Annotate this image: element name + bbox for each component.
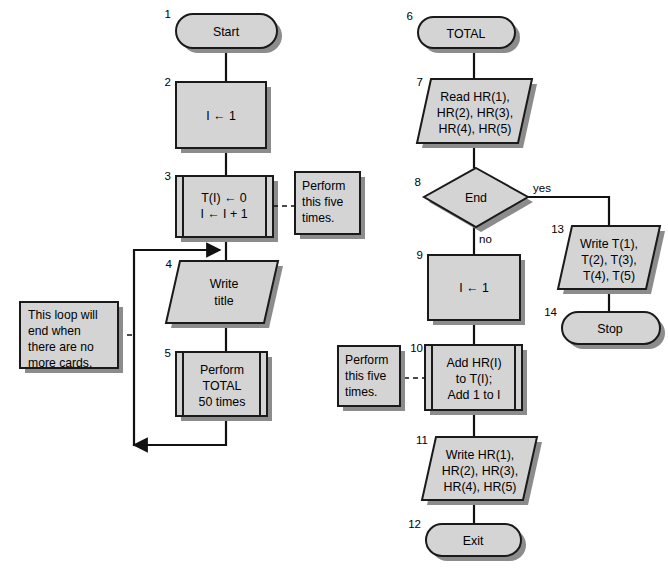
node-total-entry[interactable]: 6 TOTAL bbox=[407, 10, 520, 53]
node-write-totals-label-1: Write T(1), bbox=[580, 237, 638, 251]
node-write-totals-label-2: T(2), T(3), bbox=[581, 253, 637, 267]
node-init-i[interactable]: 2 I ← 1 bbox=[165, 76, 271, 153]
node-start-number: 1 bbox=[165, 8, 171, 20]
node-exit-number: 12 bbox=[408, 518, 421, 530]
node-write-hr-label-2: HR(2), HR(3), bbox=[442, 464, 518, 478]
node-read-hr-label-2: HR(2), HR(3), bbox=[437, 106, 513, 120]
annotation-loop-line-4: more cards. bbox=[28, 356, 92, 370]
annotation-perform-five-times-top: Perform this five times. bbox=[273, 172, 365, 239]
node-decision-end-label-1: End bbox=[465, 191, 487, 205]
node-accumulate-label-3: Add 1 to I bbox=[447, 388, 500, 402]
node-stop-label-1: Stop bbox=[597, 322, 623, 336]
annotation-loop-note: This loop will end when there are no mor… bbox=[20, 302, 134, 373]
node-read-hr-number: 7 bbox=[417, 76, 423, 88]
node-clear-totals-number: 3 bbox=[165, 170, 171, 182]
node-decision-end-number: 8 bbox=[415, 176, 421, 188]
annotation-loop-line-3: there are no bbox=[28, 340, 94, 354]
annotation-bottom-line-3: times. bbox=[345, 385, 378, 399]
node-write-hr-label-3: HR(4), HR(5) bbox=[444, 480, 517, 494]
node-clear-totals-label-1: T(I) ← 0 bbox=[201, 191, 247, 205]
node-reset-i-number: 9 bbox=[417, 249, 423, 261]
node-decision-end[interactable]: 8 End yes no bbox=[415, 168, 552, 245]
conn-8-yes-to-13 bbox=[528, 197, 609, 226]
annotation-loop-line-2: end when bbox=[28, 324, 81, 338]
node-stop[interactable]: 14 Stop bbox=[544, 306, 665, 349]
node-write-totals-label-3: T(4), T(5) bbox=[583, 269, 635, 283]
node-accumulate-label-1: Add HR(I) bbox=[446, 356, 501, 370]
node-perform-total-label-3: 50 times bbox=[199, 395, 246, 409]
annotation-bottom-line-1: Perform bbox=[345, 353, 388, 367]
flowchart-svg: 1 Start 2 I ← 1 3 T(I) ← 0 I ← I + 1 4 W… bbox=[0, 0, 668, 569]
node-perform-total[interactable]: 5 Perform TOTAL 50 times bbox=[165, 347, 272, 421]
node-accumulate[interactable]: 10 Add HR(I) to T(I); Add 1 to I bbox=[410, 342, 527, 415]
annotation-perform-five-times-bottom: Perform this five times. bbox=[338, 346, 425, 411]
flowchart-canvas: 1 Start 2 I ← 1 3 T(I) ← 0 I ← I + 1 4 W… bbox=[0, 0, 668, 569]
node-write-title-label-1: Write bbox=[210, 277, 239, 291]
node-start-label-1: Start bbox=[213, 25, 240, 39]
branch-label-no: no bbox=[479, 233, 492, 245]
node-total-entry-number: 6 bbox=[407, 10, 413, 22]
node-perform-total-number: 5 bbox=[165, 347, 171, 359]
node-init-i-number: 2 bbox=[165, 76, 171, 88]
node-perform-total-label-1: Perform bbox=[200, 363, 244, 377]
node-start[interactable]: 1 Start bbox=[165, 8, 282, 53]
node-write-totals-number: 13 bbox=[551, 223, 564, 235]
node-write-totals[interactable]: 13 Write T(1), T(2), T(3), T(4), T(5) bbox=[551, 223, 665, 294]
node-write-title-number: 4 bbox=[166, 258, 173, 270]
branch-label-yes: yes bbox=[533, 182, 551, 194]
node-clear-totals-label-2: I ← I + 1 bbox=[200, 207, 247, 221]
node-exit-label-1: Exit bbox=[463, 534, 484, 548]
annotation-bottom-line-2: this five bbox=[345, 369, 387, 383]
node-init-i-label-1: I ← 1 bbox=[206, 109, 236, 123]
node-reset-i[interactable]: 9 I ← 1 bbox=[417, 249, 525, 325]
node-write-hr-number: 11 bbox=[416, 434, 428, 446]
node-write-hr-label-1: Write HR(1), bbox=[446, 448, 515, 462]
node-accumulate-number: 10 bbox=[410, 342, 423, 354]
node-read-hr[interactable]: 7 Read HR(1), HR(2), HR(3), HR(4), HR(5) bbox=[417, 76, 537, 148]
node-read-hr-label-1: Read HR(1), bbox=[440, 90, 510, 104]
node-exit[interactable]: 12 Exit bbox=[408, 518, 526, 561]
node-clear-totals[interactable]: 3 T(I) ← 0 I ← I + 1 bbox=[165, 170, 278, 242]
node-write-title-shape bbox=[166, 261, 278, 323]
node-accumulate-label-2: to T(I); bbox=[456, 372, 492, 386]
annotation-top-line-2: this five bbox=[302, 195, 344, 209]
node-write-title-label-2: title bbox=[214, 294, 233, 308]
annotation-loop-line-1: This loop will bbox=[28, 308, 98, 322]
node-reset-i-label-1: I ← 1 bbox=[459, 281, 489, 295]
annotation-top-line-3: times. bbox=[302, 211, 335, 225]
node-write-title[interactable]: 4 Write title bbox=[166, 258, 283, 328]
node-read-hr-label-3: HR(4), HR(5) bbox=[439, 122, 512, 136]
node-total-entry-label-1: TOTAL bbox=[447, 27, 486, 41]
node-perform-total-label-2: TOTAL bbox=[203, 379, 242, 393]
node-stop-number: 14 bbox=[544, 306, 557, 318]
node-write-hr[interactable]: 11 Write HR(1), HR(2), HR(3), HR(4), HR(… bbox=[416, 434, 542, 505]
annotation-top-line-1: Perform bbox=[302, 179, 345, 193]
